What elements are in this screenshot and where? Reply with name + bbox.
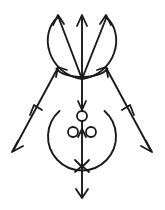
lower-left-small-circle [68, 127, 78, 137]
line-drawing-svg [0, 0, 165, 210]
arrowhead-right-arm-end-icon [141, 141, 152, 152]
right-diagonal-arm-line [107, 69, 152, 152]
arrowhead-top-left-icon [53, 15, 64, 25]
arrowhead-left-arm-end-icon [12, 141, 23, 152]
figure-canvas: Symmetric arrow glyph Bilaterally symmet… [0, 0, 165, 210]
left-diagonal-arm-line [13, 69, 58, 152]
upper-small-circle [77, 111, 87, 121]
lower-right-small-circle [86, 127, 96, 137]
